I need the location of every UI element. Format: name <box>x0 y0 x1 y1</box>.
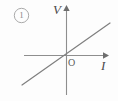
y-axis-label: V <box>53 3 61 16</box>
y-axis-arrow-icon <box>63 5 69 11</box>
origin-label: O <box>68 58 75 68</box>
item-number-label: 1 <box>14 8 29 23</box>
x-axis-label: I <box>101 59 105 72</box>
figure-container: 1 V I O <box>0 0 118 101</box>
